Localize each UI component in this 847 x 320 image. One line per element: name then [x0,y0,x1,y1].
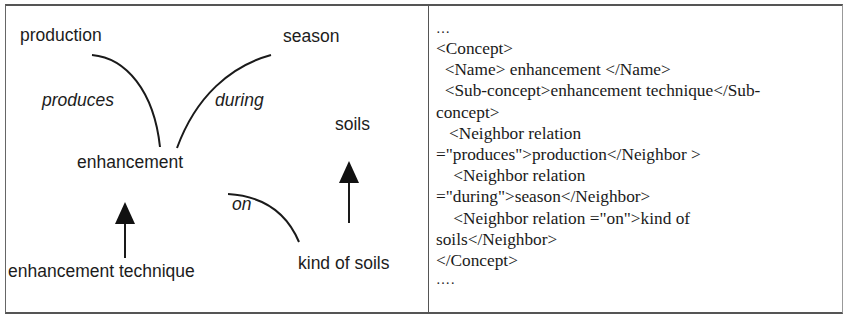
xml-line: <Neighbor relation [436,165,836,186]
node-enhancement-technique: enhancement technique [8,263,195,281]
relation-label-during: during [215,92,264,110]
node-production: production [20,27,102,45]
xml-line: </Concept> [436,250,836,271]
xml-line: <Sub-concept>enhancement technique</Sub- [436,80,836,101]
node-enhancement: enhancement [77,154,183,172]
xml-representation: … <Concept> <Name> enhancement </Name> <… [436,20,836,289]
xml-line: …. [436,271,836,289]
node-kind-of-soils: kind of soils [298,255,389,273]
subconcept-arrow-soils [339,161,359,223]
node-season: season [283,28,339,46]
column-divider [428,4,429,314]
xml-line: … [436,20,836,38]
xml-line: ="produces">production</Neighbor > [436,144,836,165]
xml-line: soils</Neighbor> [436,229,836,250]
relation-label-on: on [232,196,251,214]
xml-line: concept> [436,102,836,123]
xml-line: <Name> enhancement </Name> [436,59,836,80]
xml-line: <Concept> [436,38,836,59]
xml-line: ="during">season</Neighbor> [436,186,836,207]
xml-line: <Neighbor relation [436,123,836,144]
xml-line: <Neighbor relation ="on">kind of [436,208,836,229]
subconcept-arrow-technique [115,202,135,258]
concept-diagram: production season soils enhancement enha… [6,6,428,312]
node-soils: soils [335,116,370,134]
relation-label-produces: produces [42,92,114,110]
